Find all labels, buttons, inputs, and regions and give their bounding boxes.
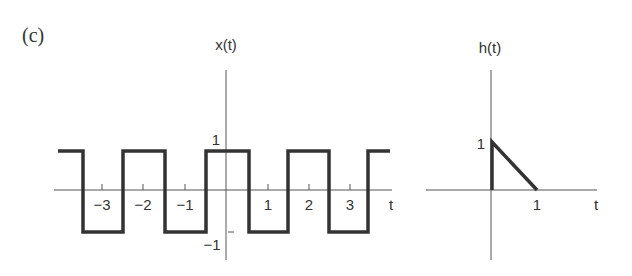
x-plot: x(t) −3 −2 −1 1 2 3 t 1 −1: [54, 36, 394, 260]
x-ytick-1: 1: [212, 131, 220, 148]
x-plot-t-label: t: [389, 196, 394, 213]
x-tick-m3: −3: [93, 196, 110, 213]
figure-canvas: (c) x(t) −3 −2 −1 1 2 3 t 1 −1 h(t) 1 1: [0, 0, 632, 276]
x-tick-m2: −2: [134, 196, 151, 213]
part-label: (c): [22, 24, 44, 47]
x-ytick-m1: −1: [203, 236, 220, 253]
h-ytick-1: 1: [477, 135, 485, 152]
h-plot-t-label: t: [594, 196, 599, 213]
h-plot-title: h(t): [479, 39, 502, 56]
x-tick-1: 1: [264, 196, 272, 213]
h-plot: h(t) 1 1 t: [426, 39, 599, 260]
x-tick-3: 3: [346, 196, 354, 213]
square-wave: [58, 151, 390, 232]
x-tick-2: 2: [305, 196, 313, 213]
ramp-signal: [492, 142, 537, 190]
x-tick-m1: −1: [176, 196, 193, 213]
x-plot-title: x(t): [215, 36, 237, 53]
h-xtick-1: 1: [533, 196, 541, 213]
